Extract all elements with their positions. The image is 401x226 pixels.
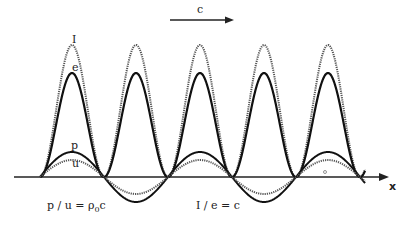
impedance-rhs: c [100, 199, 106, 212]
stray-mark [324, 171, 327, 174]
wave-diagram [0, 0, 401, 226]
x-axis [14, 173, 389, 181]
velocity-label: u [72, 158, 79, 169]
wave-speed-label: c [197, 4, 203, 15]
impedance-lhs: p / u = ρ [47, 199, 95, 212]
pressure-label: p [71, 140, 78, 151]
x-axis-label: x [389, 181, 396, 192]
intensity-equation: I / e = c [196, 199, 240, 212]
energy-density-label: e [72, 62, 79, 73]
impedance-equation: p / u = ρ0c [47, 199, 106, 214]
propagation-arrow [170, 17, 234, 24]
intensity-label: I [72, 34, 76, 45]
